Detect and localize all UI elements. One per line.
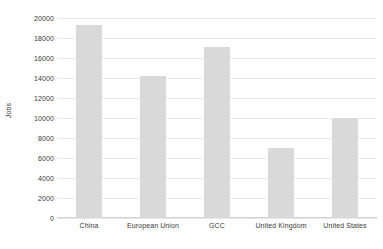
- plot-area: [57, 18, 377, 218]
- y-axis-title-label: Jobs: [6, 102, 13, 118]
- bar: [140, 76, 166, 218]
- bar-chart: Jobs 02000400060008000100001200014000160…: [0, 0, 383, 249]
- x-axis-tick-labels: ChinaEuropean UnionGCCUnited KingdomUnit…: [57, 222, 377, 238]
- y-axis-title: Jobs: [2, 0, 16, 220]
- x-axis-tick-label: China: [80, 222, 99, 229]
- bar: [204, 47, 230, 218]
- y-axis-tick-label: 6000: [38, 155, 54, 162]
- x-axis-tick-label: GCC: [209, 222, 225, 229]
- y-axis-tick-label: 8000: [38, 135, 54, 142]
- y-axis-tick-label: 18000: [34, 35, 54, 42]
- y-axis-tick-label: 10000: [34, 115, 54, 122]
- bar: [76, 25, 102, 218]
- y-axis-tick-label: 12000: [34, 95, 54, 102]
- bars-layer: [57, 18, 377, 218]
- y-axis-tick-label: 16000: [34, 55, 54, 62]
- y-axis-tick-label: 0: [50, 215, 54, 222]
- y-axis-tick-label: 14000: [34, 75, 54, 82]
- bar: [268, 148, 294, 218]
- y-axis-tick-label: 2000: [38, 195, 54, 202]
- x-axis-tick-label: United States: [323, 222, 366, 229]
- bar: [332, 118, 358, 218]
- x-axis-tick-label: United Kingdom: [255, 222, 306, 229]
- y-axis-tick-labels: 0200040006000800010000120001400016000180…: [16, 18, 54, 218]
- gridline: [57, 218, 377, 219]
- x-axis-tick-label: European Union: [127, 222, 179, 229]
- y-axis-tick-label: 4000: [38, 175, 54, 182]
- y-axis-tick-label: 20000: [34, 15, 54, 22]
